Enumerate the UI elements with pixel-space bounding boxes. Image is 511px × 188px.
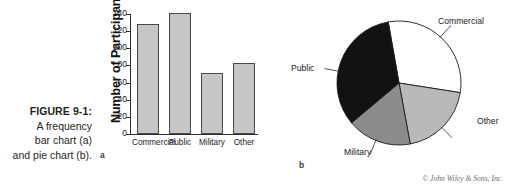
y-tick-label: 40 xyxy=(118,94,127,104)
bar-label-other: Other xyxy=(228,138,260,147)
leader-line-other xyxy=(441,127,451,138)
bar-public xyxy=(169,13,191,134)
bar-chart-panel-a: Number of Participants 02040608010012014… xyxy=(94,6,264,156)
y-tick-label: 140 xyxy=(113,8,127,18)
bar-label-commercial: Commercial xyxy=(132,138,164,147)
y-tick-label: 80 xyxy=(118,59,127,69)
pie-slices xyxy=(337,21,461,145)
bar-chart-plot-area: 020406080100120140 CommercialPublicMilit… xyxy=(130,14,258,134)
figure-9-1: FIGURE 9-1: A frequency bar chart (a) an… xyxy=(0,0,511,188)
bar-chart-x-axis-line xyxy=(130,134,258,135)
pie-chart-panel-b: Commercial Other Military Public xyxy=(288,0,511,188)
pie-label-commercial: Commercial xyxy=(438,16,484,26)
pie-label-military: Military xyxy=(344,147,371,157)
leader-line-public xyxy=(324,69,339,72)
y-tick-label: 0 xyxy=(122,128,127,138)
y-tick-label: 100 xyxy=(113,42,127,52)
pie-label-other: Other xyxy=(477,116,499,126)
pie-chart-svg xyxy=(288,0,511,188)
figure-caption-line-3: bar chart (a) xyxy=(0,133,92,148)
y-tick-label: 60 xyxy=(118,77,127,87)
bar-military xyxy=(201,73,223,134)
bar-label-military: Military xyxy=(196,138,228,147)
bar-other xyxy=(233,63,255,134)
y-tick-label: 120 xyxy=(113,25,127,35)
figure-caption-line-4: and pie chart (b). xyxy=(0,148,92,163)
leader-line-commercial xyxy=(440,25,451,38)
pie-label-public: Public xyxy=(291,63,314,73)
copyright-credit: © John Wiley & Sons, Inc. xyxy=(422,174,503,183)
bar-commercial xyxy=(137,24,159,134)
figure-caption-title: FIGURE 9-1: xyxy=(0,104,92,119)
figure-caption: FIGURE 9-1: A frequency bar chart (a) an… xyxy=(0,104,92,162)
y-tick-label: 20 xyxy=(118,111,127,121)
figure-caption-line-2: A frequency xyxy=(0,119,92,134)
bar-label-public: Public xyxy=(164,138,196,147)
